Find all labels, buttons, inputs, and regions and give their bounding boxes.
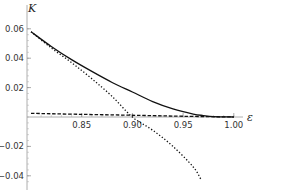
x-axis-label: ε (247, 111, 253, 124)
y-tick-label: −0.02 (0, 141, 24, 151)
y-tick-label: 0.04 (5, 53, 24, 63)
solid-curve (31, 32, 234, 117)
x-tick-label: 0.90 (123, 120, 142, 130)
x-tick-label: 0.95 (174, 120, 193, 130)
x-tick-label: 0.85 (72, 120, 91, 130)
axes (27, 5, 243, 190)
x-tick-label: 1.00 (224, 120, 243, 130)
ticks: 0.060.040.02−0.02−0.040.850.900.951.00 (0, 24, 243, 182)
y-tick-label: −0.04 (0, 171, 24, 181)
chart: 0.060.040.02−0.02−0.040.850.900.951.00 ε… (0, 0, 298, 193)
dotted-curve (31, 32, 201, 180)
y-axis-label: K (27, 2, 37, 15)
y-tick-label: 0.06 (5, 24, 24, 34)
series (31, 32, 234, 180)
y-tick-label: 0.02 (5, 83, 24, 93)
